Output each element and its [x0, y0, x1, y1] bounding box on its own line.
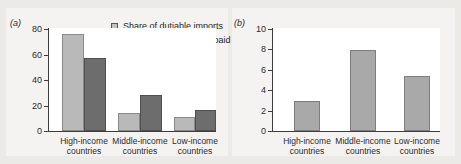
y-tick-label-b-6: 6: [261, 65, 266, 75]
x-category-b-low-income-line2: countries: [394, 146, 440, 156]
panel-a-label: (a): [10, 18, 21, 28]
x-category-a-middle-income-line2: countries: [112, 146, 167, 156]
y-tick-label-a-80: 80: [32, 24, 42, 34]
y-axis-b: [272, 28, 273, 132]
x-category-b-middle-income: Middle-income countries: [335, 136, 390, 156]
plot-area-a: 0 20 40 60 80: [48, 28, 216, 132]
x-category-a-high-income-line1: High-income: [60, 136, 108, 146]
x-category-a-middle-income: Middle-income countries: [112, 136, 167, 156]
x-category-b-high-income-line1: High-income: [283, 136, 331, 146]
x-category-b-low-income-line1: Low-income: [394, 136, 440, 146]
bar-a-high-income-duties: [84, 58, 106, 131]
x-category-b-middle-income-line1: Middle-income: [335, 136, 390, 146]
bar-b-high-income: [294, 101, 320, 131]
y-tick-label-b-8: 8: [261, 44, 266, 54]
y-tick-label-b-4: 4: [261, 85, 266, 95]
bar-a-low-income-duties: [195, 110, 216, 131]
bar-b-low-income: [404, 76, 430, 131]
figure-container: (a) Share of dutiable imports Share of i…: [0, 0, 461, 164]
y-tick-label-a-20: 20: [32, 101, 42, 111]
x-category-a-high-income-line2: countries: [60, 146, 108, 156]
y-tick-label-a-0: 0: [37, 126, 42, 136]
x-category-a-low-income: Low-income countries: [172, 136, 218, 156]
x-axis-b: [272, 131, 440, 132]
x-category-b-low-income: Low-income countries: [394, 136, 440, 156]
plot-area-b: 0 2 4 6 8 10: [272, 28, 440, 132]
panel-b-label: (b): [234, 18, 245, 28]
x-category-a-high-income: High-income countries: [60, 136, 108, 156]
bar-b-middle-income: [350, 50, 376, 131]
x-category-b-high-income-line2: countries: [283, 146, 331, 156]
x-category-a-low-income-line1: Low-income: [172, 136, 218, 146]
y-axis-a: [48, 28, 49, 132]
x-category-a-middle-income-line1: Middle-income: [112, 136, 167, 146]
x-category-b-high-income: High-income countries: [283, 136, 331, 156]
y-tick-label-b-10: 10: [256, 24, 266, 34]
x-axis-a: [48, 131, 216, 132]
chart-panel-b: (b) 0 2 4 6 8: [232, 8, 455, 156]
x-category-b-middle-income-line2: countries: [335, 146, 390, 156]
bar-a-middle-income-dutiable: [118, 113, 140, 131]
y-tick-label-a-40: 40: [32, 75, 42, 85]
bar-a-high-income-dutiable: [62, 34, 84, 131]
bar-a-low-income-dutiable: [174, 117, 195, 131]
y-tick-label-b-0: 0: [261, 126, 266, 136]
bar-a-middle-income-duties: [140, 95, 162, 131]
x-category-a-low-income-line2: countries: [172, 146, 218, 156]
y-tick-label-a-60: 60: [32, 50, 42, 60]
y-tick-label-b-2: 2: [261, 106, 266, 116]
chart-panel-a: (a) Share of dutiable imports Share of i…: [6, 8, 228, 156]
